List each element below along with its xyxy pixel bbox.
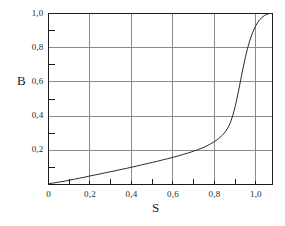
y-tick-label: 1,0 [22, 8, 44, 18]
y-tick-label: 0,4 [22, 110, 44, 120]
x-tick-label: 0,2 [78, 189, 102, 199]
x-axis-label: S [152, 200, 160, 216]
grid-lines [49, 14, 273, 185]
plot-frame [49, 14, 273, 185]
x-tick-label: 0,6 [161, 189, 185, 199]
x-tick-label: 0,8 [202, 189, 226, 199]
x-tick-label: 0 [37, 189, 61, 199]
minor-ticks [49, 31, 236, 185]
y-tick-label: 0,6 [22, 76, 44, 86]
y-tick-label: 0,8 [22, 42, 44, 52]
x-tick-label: 1,0 [244, 189, 268, 199]
x-tick-label: 0,4 [119, 189, 143, 199]
figure-container: B S 0,20,40,60,81,0 00,20,40,60,81,0 [0, 0, 285, 226]
y-tick-label: 0,2 [22, 144, 44, 154]
data-curve [49, 14, 271, 184]
